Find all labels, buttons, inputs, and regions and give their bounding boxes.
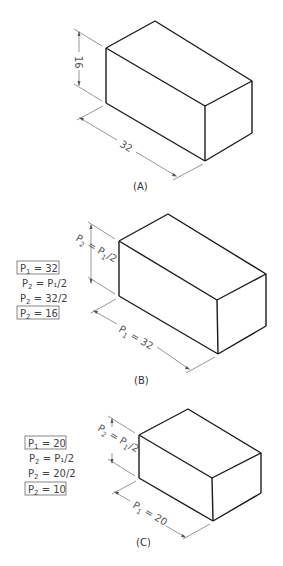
figure-c: P2 = P1/2 P1 = 20 P1 = 20 P2 = P₁/2 P2 =… (25, 409, 261, 548)
box-c (139, 409, 261, 521)
length-label-a: 32 (118, 138, 135, 154)
height-dimension-b: P2 = P1/2 (73, 222, 119, 294)
length-label-b: P1 = 32 (116, 323, 156, 354)
equation-b-3: P2 = 32/2 (20, 293, 68, 306)
height-label-a: 16 (73, 56, 84, 69)
caption-a: (A) (133, 181, 148, 192)
figure-b: P2 = P1/2 P1 = 32 P1 = 32 P2 = P₁/2 P2 =… (17, 214, 266, 386)
caption-c: (C) (136, 537, 151, 548)
equations-c: P1 = 20 P2 = P₁/2 P2 = 20/2 P2 = 10 (25, 436, 76, 497)
length-label-c: P1 = 20 (130, 499, 170, 530)
length-dimension-a: 32 (77, 106, 203, 180)
equation-c-2: P2 = P₁/2 (29, 453, 74, 466)
height-dimension-c: P2 = P1/2 (95, 416, 141, 476)
caption-b: (B) (134, 375, 149, 386)
height-dimension-a: 16 (73, 29, 102, 101)
equations-b: P1 = 32 P2 = P₁/2 P2 = 32/2 P2 = 16 (17, 261, 68, 321)
length-dimension-b: P1 = 32 (91, 299, 215, 373)
height-label-c: P2 = P1/2 (95, 422, 141, 457)
figure-a: 16 32 (A) (73, 21, 252, 192)
isometric-box-diagram: 16 32 (A) P2 = P (0, 0, 283, 566)
equation-b-2: P2 = P₁/2 (22, 278, 67, 291)
equation-c-3: P2 = 20/2 (28, 468, 76, 481)
